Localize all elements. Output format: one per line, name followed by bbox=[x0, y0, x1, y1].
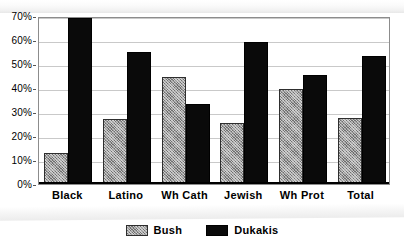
chart-legend: BushDukakis bbox=[0, 224, 404, 236]
bar-dukakis-total bbox=[362, 56, 386, 184]
y-axis-tick-mark bbox=[33, 65, 36, 66]
y-axis-tick-label: 0% bbox=[17, 180, 32, 190]
bar-dukakis-jewish bbox=[244, 42, 268, 184]
bar-group bbox=[98, 18, 157, 184]
bar-dukakis-black bbox=[68, 18, 92, 184]
y-axis-tick-label: 70% bbox=[11, 12, 32, 22]
y-axis-tick-mark bbox=[33, 17, 36, 18]
bar-group bbox=[274, 18, 333, 184]
scan-artifact-top bbox=[0, 0, 404, 13]
y-axis-tick-mark bbox=[33, 89, 36, 90]
bar-group bbox=[332, 18, 391, 184]
x-axis-baseline bbox=[39, 182, 389, 184]
y-axis-tick-label: 40% bbox=[11, 84, 32, 94]
x-axis-label-jewish: Jewish bbox=[214, 189, 273, 202]
y-axis-tick-label: 20% bbox=[11, 132, 32, 142]
bar-bush-latino bbox=[103, 119, 127, 184]
y-axis-tick-mark bbox=[33, 41, 36, 42]
bar-bush-wh-prot bbox=[279, 89, 303, 184]
y-axis-tick-label: 60% bbox=[11, 36, 32, 46]
bar-group bbox=[39, 18, 98, 184]
x-axis-label-wh-cath: Wh Cath bbox=[155, 189, 214, 202]
scan-artifact-bottom bbox=[0, 203, 404, 221]
y-axis-tick-mark bbox=[33, 137, 36, 138]
x-axis-label-latino: Latino bbox=[97, 189, 156, 202]
y-axis-tick-mark bbox=[33, 113, 36, 114]
y-axis-tick-mark bbox=[33, 161, 36, 162]
bar-group bbox=[215, 18, 274, 184]
y-axis-tick-label: 30% bbox=[11, 108, 32, 118]
x-axis-label-total: Total bbox=[331, 189, 390, 202]
x-axis-label-wh-prot: Wh Prot bbox=[273, 189, 332, 202]
legend-item-bush: Bush bbox=[126, 224, 183, 236]
plot-area bbox=[38, 17, 390, 185]
bar-dukakis-wh-prot bbox=[303, 75, 327, 184]
y-axis-tick-label: 10% bbox=[11, 156, 32, 166]
bar-chart: 0%10%20%30%40%50%60%70% BlackLatinoWh Ca… bbox=[0, 0, 404, 249]
bar-bush-wh-cath bbox=[162, 77, 186, 184]
bar-dukakis-wh-cath bbox=[186, 104, 210, 184]
bar-dukakis-latino bbox=[127, 52, 151, 184]
bar-bush-total bbox=[338, 118, 362, 184]
legend-label: Bush bbox=[154, 224, 183, 236]
x-axis-label-black: Black bbox=[38, 189, 97, 202]
dukakis-swatch bbox=[206, 225, 228, 236]
legend-item-dukakis: Dukakis bbox=[206, 224, 278, 236]
bar-group bbox=[156, 18, 215, 184]
x-axis: BlackLatinoWh CathJewishWh ProtTotal bbox=[38, 189, 390, 205]
bar-bush-jewish bbox=[220, 123, 244, 184]
y-axis-tick-mark bbox=[33, 185, 36, 186]
bars-layer bbox=[39, 18, 389, 184]
bar-bush-black bbox=[44, 153, 68, 184]
y-axis-tick-label: 50% bbox=[11, 60, 32, 70]
y-axis: 0%10%20%30%40%50%60%70% bbox=[0, 17, 36, 185]
bush-swatch bbox=[126, 225, 148, 236]
legend-label: Dukakis bbox=[234, 224, 278, 236]
